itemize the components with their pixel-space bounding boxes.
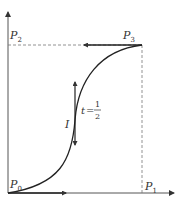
label-p1: P1 (144, 180, 157, 195)
label-p2: P2 (9, 29, 22, 44)
svg-text:1: 1 (95, 100, 100, 109)
label-t-half: t = 1 2 (81, 100, 101, 121)
label-tangent-i: I (64, 118, 70, 131)
svg-text:=: = (86, 105, 94, 116)
label-p3: P3 (122, 29, 135, 44)
bezier-diagram: P2 P3 P0 P1 I t = 1 2 (0, 0, 178, 207)
label-p0: P0 (9, 178, 22, 193)
svg-text:2: 2 (95, 112, 100, 121)
